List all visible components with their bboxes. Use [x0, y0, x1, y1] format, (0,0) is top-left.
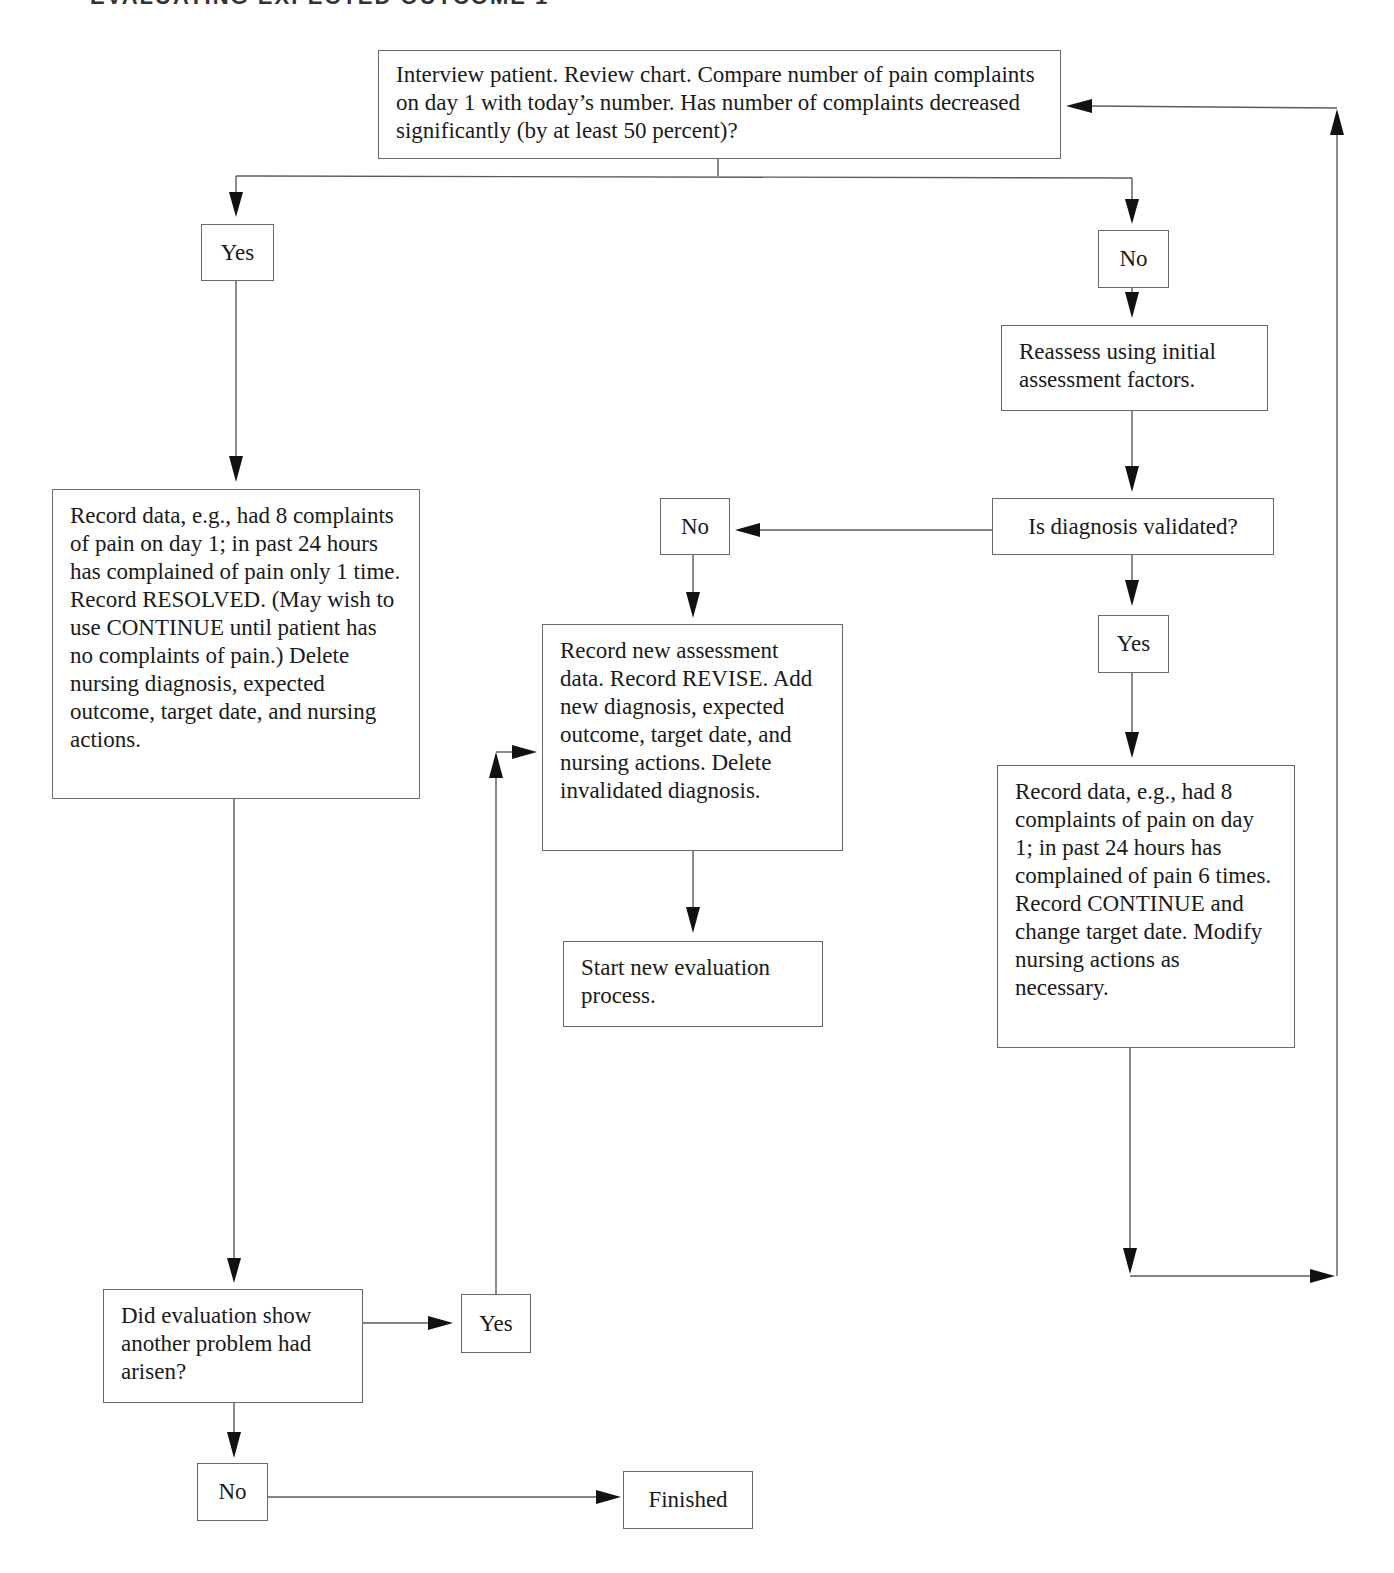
no-problem-box: No: [197, 1463, 268, 1521]
start-interview-box: Interview patient. Review chart. Compare…: [378, 50, 1061, 159]
no-validated-box: No: [660, 498, 730, 555]
finished-box: Finished: [623, 1471, 753, 1529]
yes-problem-box: Yes: [461, 1294, 531, 1353]
another-problem-box: Did evaluation show another problem had …: [103, 1289, 363, 1403]
flowchart-canvas: EVALUATING EXPECTED OUTCOME 1: [0, 0, 1394, 1573]
record-revise-box: Record new assessment data. Record REVIS…: [542, 624, 843, 851]
no-decreased-box: No: [1098, 230, 1169, 288]
yes-validated-box: Yes: [1098, 615, 1169, 673]
record-continue-box: Record data, e.g., had 8 complaints of p…: [997, 765, 1295, 1048]
start-new-evaluation-box: Start new evaluation process.: [563, 941, 823, 1027]
reassess-box: Reassess using initial assessment factor…: [1001, 325, 1268, 411]
record-resolved-box: Record data, e.g., had 8 complaints of p…: [52, 489, 420, 799]
diagnosis-validated-box: Is diagnosis validated?: [992, 498, 1274, 555]
yes-decreased-box: Yes: [201, 224, 274, 281]
